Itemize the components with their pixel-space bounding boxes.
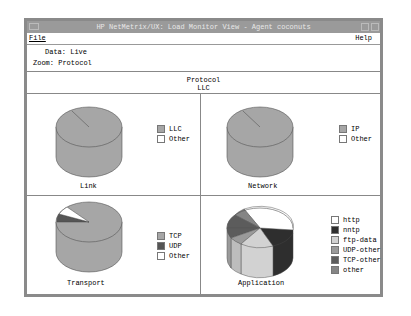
legend-label: nntp bbox=[343, 226, 360, 234]
chart-title: Network bbox=[248, 182, 277, 190]
legend-label: TCP bbox=[169, 232, 182, 240]
legend-swatch bbox=[157, 135, 165, 143]
legend-label: other bbox=[343, 266, 364, 274]
header-line1: Protocol bbox=[27, 76, 380, 84]
legend-label: Other bbox=[351, 135, 372, 143]
legend-swatch bbox=[331, 226, 339, 234]
legend-swatch bbox=[331, 266, 339, 274]
legend-swatch bbox=[331, 256, 339, 264]
chart-title: Application bbox=[238, 279, 284, 287]
legend-label: Other bbox=[169, 135, 190, 143]
legend-swatch bbox=[339, 125, 347, 133]
legend-swatch bbox=[331, 236, 339, 244]
info-panel: Data: Live Zoom: Protocol bbox=[27, 45, 380, 72]
chart-title: Transport bbox=[67, 279, 105, 287]
link-chart-panel[interactable]: Link LLC Other bbox=[27, 95, 200, 195]
legend-label: ftp-data bbox=[343, 236, 377, 244]
legend-swatch bbox=[157, 242, 165, 250]
transport-legend: TCP UDP Other bbox=[157, 231, 190, 261]
legend-swatch bbox=[157, 125, 165, 133]
protocol-header: Protocol LLC bbox=[27, 72, 380, 94]
legend-label: UDP-other bbox=[343, 246, 381, 254]
legend-label: http bbox=[343, 216, 360, 224]
window-title: HP NetMetrix/UX: Load Monitor View - Age… bbox=[96, 23, 310, 31]
zoom-level-label: Zoom: Protocol bbox=[33, 59, 92, 67]
window-menu-button[interactable] bbox=[29, 23, 39, 30]
legend-swatch bbox=[331, 246, 339, 254]
legend-label: IP bbox=[351, 125, 359, 133]
link-pie-chart[interactable] bbox=[27, 95, 200, 195]
network-chart-panel[interactable]: Network IP Other bbox=[201, 95, 383, 195]
network-legend: IP Other bbox=[339, 124, 372, 144]
header-line2: LLC bbox=[27, 84, 380, 92]
load-monitor-window: HP NetMetrix/UX: Load Monitor View - Age… bbox=[24, 18, 383, 297]
menu-help[interactable]: Help bbox=[355, 33, 372, 44]
legend-label: Other bbox=[169, 252, 190, 260]
application-chart-panel[interactable]: Application http nntp ftp-data UDP-other… bbox=[201, 196, 383, 294]
legend-swatch bbox=[157, 232, 165, 240]
network-pie-chart[interactable] bbox=[201, 95, 383, 195]
legend-label: LLC bbox=[169, 125, 182, 133]
legend-label: TCP-other bbox=[343, 256, 381, 264]
minimize-button[interactable] bbox=[361, 23, 369, 31]
legend-swatch bbox=[331, 216, 339, 224]
link-legend: LLC Other bbox=[157, 124, 190, 144]
menu-bar: File Help bbox=[27, 33, 380, 45]
transport-chart-panel[interactable]: Transport TCP UDP Other bbox=[27, 196, 200, 294]
legend-swatch bbox=[157, 252, 165, 260]
data-source-label: Data: Live bbox=[45, 48, 87, 56]
menu-file[interactable]: File bbox=[29, 33, 46, 44]
chart-title: Link bbox=[80, 182, 97, 190]
maximize-button[interactable] bbox=[371, 23, 379, 31]
legend-label: UDP bbox=[169, 242, 182, 250]
title-bar[interactable]: HP NetMetrix/UX: Load Monitor View - Age… bbox=[27, 21, 380, 33]
application-legend: http nntp ftp-data UDP-other TCP-other o… bbox=[331, 215, 381, 275]
legend-swatch bbox=[339, 135, 347, 143]
